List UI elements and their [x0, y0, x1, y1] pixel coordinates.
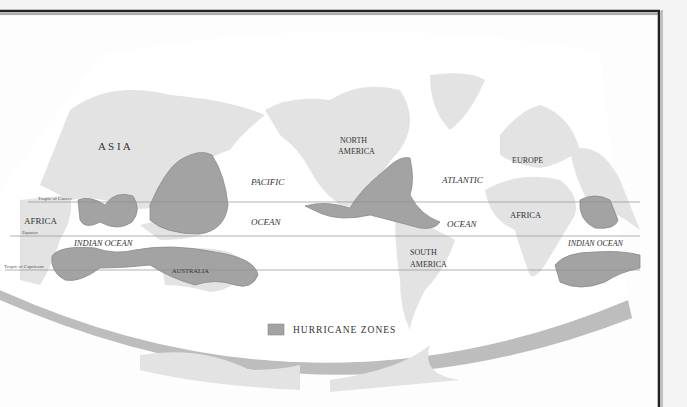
label-south-america-1: SOUTH: [410, 248, 437, 257]
tropic-of-cancer-label: Tropic of Cancer: [38, 196, 72, 201]
label-ocean-pacific: OCEAN: [251, 217, 281, 227]
hurricane-zones-map: Tropic of Cancer Equator Tropic of Capri…: [0, 0, 687, 407]
label-north-america-1: NORTH: [340, 136, 367, 145]
label-africa-east: AFRICA: [510, 210, 542, 220]
tropic-of-capricorn-label: Tropic of Capricorn: [4, 264, 44, 269]
label-ocean-atlantic: OCEAN: [447, 219, 477, 229]
label-north-america-2: AMERICA: [338, 147, 375, 156]
label-south-america-2: AMERICA: [410, 260, 447, 269]
legend-label: HURRICANE ZONES: [293, 325, 396, 335]
label-europe: EUROPE: [512, 156, 543, 165]
label-pacific: PACIFIC: [250, 177, 285, 187]
label-asia: A S I A: [98, 140, 131, 152]
label-australia: AUSTRALIA: [172, 267, 209, 274]
legend-swatch: [268, 324, 284, 335]
label-indian-ocean-east: INDIAN OCEAN: [567, 239, 624, 248]
label-atlantic: ATLANTIC: [441, 175, 484, 185]
label-africa-west: AFRICA: [24, 216, 58, 226]
label-indian-ocean-west: INDIAN OCEAN: [73, 238, 134, 248]
equator-label: Equator: [22, 230, 38, 235]
